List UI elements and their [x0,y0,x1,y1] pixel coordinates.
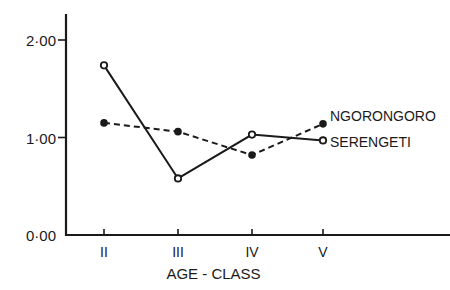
data-point-open [175,175,181,181]
series-label: NGORONGORO [330,108,436,124]
x-tick-label: II [100,244,108,260]
x-tick-label: III [172,244,184,260]
data-point-open [249,131,255,137]
y-tick-label: 0·00 [26,227,56,244]
data-point-open [101,62,107,68]
y-tick-label: 1·00 [26,130,56,147]
x-axis-label: AGE - CLASS [166,265,260,282]
series-line [104,65,323,178]
labels-group: 0·001·002·00IIIIIIVVAGE - CLASSNGORONGOR… [26,32,436,282]
y-tick-label: 2·00 [26,32,56,49]
series-ngorongoro [100,119,327,159]
series-serengeti [101,62,326,182]
line-chart: 0·001·002·00IIIIIIVVAGE - CLASSNGORONGOR… [0,0,450,290]
series-label: SERENGETI [330,134,411,150]
x-tick-label: V [318,244,328,260]
data-point-filled [174,128,182,136]
data-point-filled [100,119,108,127]
data-point-filled [248,151,256,159]
data-point-filled [319,120,327,128]
series-line [104,123,323,155]
data-point-open [320,137,326,143]
x-tick-label: IV [245,244,259,260]
series-group [100,62,327,182]
